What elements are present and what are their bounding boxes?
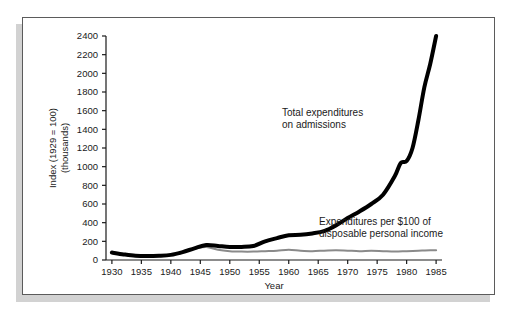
y-tick-label: 200: [82, 236, 98, 247]
x-tick-label: 1965: [308, 266, 329, 277]
y-tick-label: 400: [82, 217, 98, 228]
y-tick-label: 1600: [77, 105, 98, 116]
page-root: 0200400600800100012001400160018002000220…: [0, 0, 518, 316]
x-tick-label: 1935: [131, 266, 152, 277]
x-tick-label: 1940: [160, 266, 181, 277]
x-tick-label: 1970: [337, 266, 358, 277]
series-annotations: Total expenditureson admissionsExpenditu…: [282, 107, 443, 239]
y-tick-label: 2400: [77, 30, 98, 41]
chart-svg: 0200400600800100012001400160018002000220…: [23, 18, 496, 296]
y-tick-label: 0: [93, 254, 98, 265]
annotation-expenditures-per-100: Expenditures per $100 ofdisposable perso…: [319, 216, 443, 239]
figure-panel: 0200400600800100012001400160018002000220…: [22, 17, 495, 295]
y-tick-label: 1200: [77, 142, 98, 153]
x-tick-label: 1930: [101, 266, 122, 277]
x-axis-tick-labels: 1930193519401945195019551960196519701975…: [101, 266, 446, 277]
y-tick-label: 2000: [77, 68, 98, 79]
y-tick-label: 800: [82, 180, 98, 191]
line-chart: 0200400600800100012001400160018002000220…: [23, 18, 496, 296]
y-tick-label: 1400: [77, 124, 98, 135]
y-tick-label: 2200: [77, 49, 98, 60]
y-axis-tick-labels: 0200400600800100012001400160018002000220…: [77, 30, 98, 265]
y-axis-title-line2: (thousands): [59, 123, 70, 173]
y-tick-label: 1800: [77, 86, 98, 97]
x-tick-label: 1950: [219, 266, 240, 277]
x-axis-title: Year: [264, 280, 283, 291]
x-tick-label: 1980: [396, 266, 417, 277]
annotation-total-expenditures: Total expenditureson admissions: [282, 107, 363, 130]
x-tick-label: 1955: [249, 266, 270, 277]
y-tick-label: 1000: [77, 161, 98, 172]
y-tick-label: 600: [82, 198, 98, 209]
x-tick-label: 1945: [190, 266, 211, 277]
x-tick-label: 1960: [278, 266, 299, 277]
x-tick-label: 1975: [367, 266, 388, 277]
y-axis-title-line1: Index (1929 = 100): [47, 108, 58, 188]
x-tick-label: 1985: [426, 266, 447, 277]
